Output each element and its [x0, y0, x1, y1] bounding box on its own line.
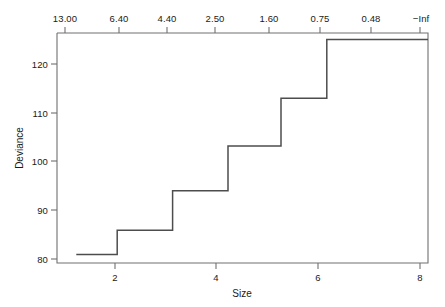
left-axis-ticks [51, 64, 57, 259]
x-tick-label-6: 6 [315, 272, 320, 283]
top-tick-label-7: −Inf [413, 13, 430, 24]
deviance-step-series [76, 40, 428, 255]
y-tick-label-100: 100 [22, 156, 48, 167]
y-axis-title: Deviance [14, 127, 25, 169]
top-tick-label-0: 13.00 [53, 13, 77, 24]
axis-frame [57, 33, 428, 263]
deviance-vs-size-step-chart: 13.00 6.40 4.40 2.50 1.60 0.75 0.48 −Inf… [0, 0, 445, 307]
y-tick-label-80: 80 [22, 254, 48, 265]
bottom-axis-ticks [115, 263, 420, 269]
top-tick-label-2: 4.40 [158, 13, 177, 24]
y-tick-label-90: 90 [22, 205, 48, 216]
top-tick-label-5: 0.75 [311, 13, 330, 24]
y-tick-label-120: 120 [22, 59, 48, 70]
top-tick-label-4: 1.60 [260, 13, 279, 24]
top-tick-label-6: 0.48 [362, 13, 381, 24]
y-tick-label-110: 110 [22, 108, 48, 119]
top-tick-label-1: 6.40 [110, 13, 129, 24]
x-axis-title: Size [232, 288, 251, 299]
x-tick-label-2: 2 [112, 272, 117, 283]
top-axis-ticks [65, 27, 420, 33]
x-tick-label-8: 8 [417, 272, 422, 283]
x-tick-label-4: 4 [213, 272, 218, 283]
top-tick-label-3: 2.50 [206, 13, 225, 24]
plot-canvas [0, 0, 445, 307]
